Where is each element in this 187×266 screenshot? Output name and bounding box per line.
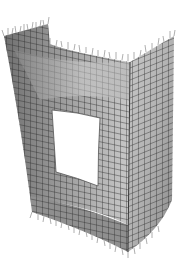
wall-mesh-drawing [0, 0, 187, 266]
right-wall-face [128, 36, 174, 252]
fe-mesh-figure [0, 0, 187, 266]
